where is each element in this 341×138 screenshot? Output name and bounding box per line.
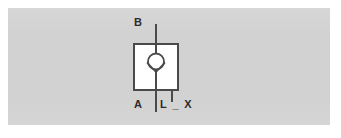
screenshot-canvas: B A L _ X bbox=[0, 0, 341, 138]
drain-label-lx: L _ X bbox=[160, 99, 193, 110]
valve-schematic bbox=[0, 0, 341, 138]
port-label-b: B bbox=[134, 17, 142, 28]
port-label-a: A bbox=[134, 99, 142, 110]
